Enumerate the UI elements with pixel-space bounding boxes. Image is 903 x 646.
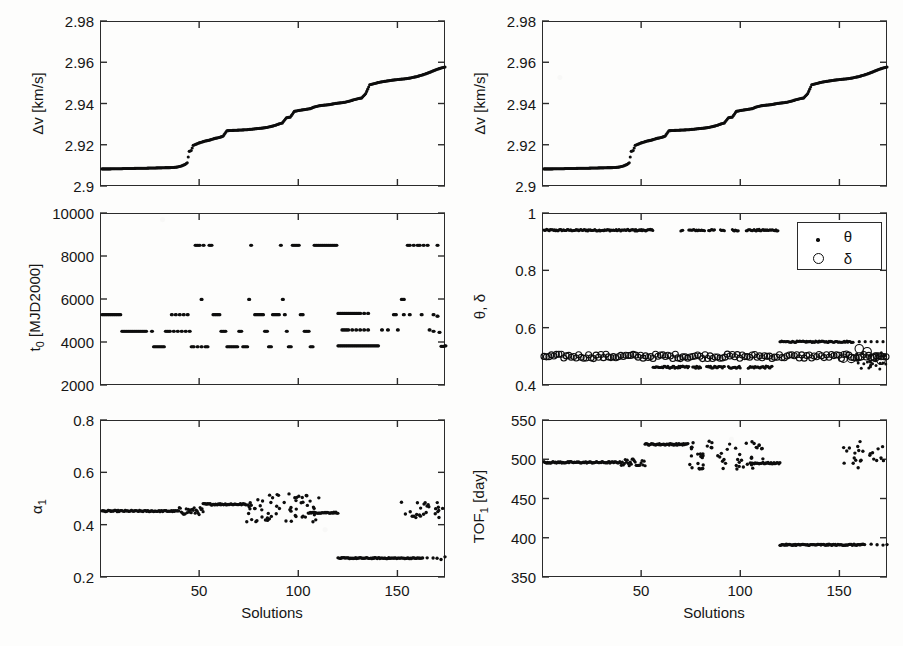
legend-entry-theta: θ bbox=[798, 225, 883, 247]
plot-dv-left bbox=[0, 0, 455, 200]
plot-tof1 bbox=[442, 405, 903, 646]
panel-tof1: TOF1 [day] 550 500 450 400 350 50 100 15… bbox=[442, 405, 903, 646]
legend-label-delta: δ bbox=[838, 250, 858, 267]
figure-canvas: Δv [km/s] 2.98 2.96 2.94 2.92 2.9 Δv [km… bbox=[0, 0, 903, 646]
panel-dv-right: Δv [km/s] 2.98 2.96 2.94 2.92 2.9 bbox=[442, 0, 903, 200]
panel-dv-left: Δv [km/s] 2.98 2.96 2.94 2.92 2.9 bbox=[0, 0, 455, 200]
legend-box: θ δ bbox=[797, 222, 882, 270]
plot-alpha1 bbox=[0, 405, 455, 646]
legend-entry-delta: δ bbox=[798, 247, 883, 269]
plot-dv-right bbox=[442, 0, 903, 200]
legend-dot-marker-icon bbox=[798, 228, 838, 245]
legend-circle-marker-icon bbox=[798, 250, 838, 267]
plot-t0 bbox=[0, 200, 455, 405]
panel-theta-delta: θ, δ 1 0.8 0.6 0.4 θ δ bbox=[442, 200, 903, 405]
legend-label-theta: θ bbox=[838, 228, 858, 245]
panel-alpha1: α1 0.8 0.6 0.4 0.2 50 100 150 Solutions bbox=[0, 405, 455, 646]
panel-t0: t0 [MJD2000] 10000 8000 6000 4000 2000 bbox=[0, 200, 455, 405]
